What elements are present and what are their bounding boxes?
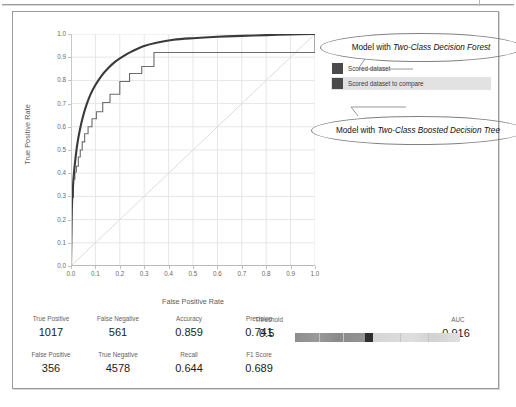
threshold-label: Threshold bbox=[255, 316, 283, 323]
metric-label-true-negative: True Negative bbox=[83, 351, 153, 358]
metric-value-false-negative: 561 bbox=[83, 326, 153, 338]
callout-2-emphasis: Two-Class Boosted Decision Tree bbox=[377, 126, 500, 135]
metric-label-recall: Recall bbox=[154, 351, 224, 358]
metric-value-true-negative: 4578 bbox=[83, 362, 153, 374]
callout-decision-forest: Model with Two-Class Decision Forest bbox=[320, 33, 516, 62]
threshold-slider-seam-4 bbox=[428, 333, 429, 342]
page-top-rule bbox=[2, 4, 514, 6]
evaluation-card: True Positive Rate False Positive Rate 0… bbox=[12, 11, 499, 389]
metric-value-recall: 0.644 bbox=[154, 362, 224, 374]
metric-value-true-positive: 1017 bbox=[16, 326, 86, 338]
metric-label-true-positive: True Positive bbox=[16, 315, 86, 322]
metrics-panel: True Positive False Negative Accuracy Pr… bbox=[13, 315, 500, 387]
callout-boosted-decision-tree: Model with Two-Class Boosted Decision Tr… bbox=[311, 116, 516, 145]
threshold-slider-seam-2 bbox=[343, 333, 344, 342]
threshold-slider-track-filled bbox=[295, 333, 367, 342]
threshold-slider-handle[interactable] bbox=[365, 333, 373, 342]
threshold-slider-track-remaining bbox=[372, 333, 460, 342]
metric-value-false-positive: 356 bbox=[16, 362, 86, 374]
auc-label: AUC bbox=[433, 316, 483, 323]
metric-label-false-negative: False Negative bbox=[83, 315, 153, 322]
threshold-slider-seam-1 bbox=[319, 333, 320, 342]
roc-evaluation-page: True Positive Rate False Positive Rate 0… bbox=[0, 0, 516, 407]
callout-1-emphasis: Two-Class Decision Forest bbox=[393, 43, 490, 52]
callout-2-prefix: Model with bbox=[336, 126, 377, 135]
metric-label-f1-score: F1 Score bbox=[224, 351, 294, 358]
page-top-tick bbox=[479, 0, 480, 6]
threshold-slider-seam-3 bbox=[400, 333, 401, 342]
metric-value-f1-score: 0.689 bbox=[224, 362, 294, 374]
metric-label-false-positive: False Positive bbox=[16, 351, 86, 358]
threshold-slider[interactable] bbox=[295, 333, 460, 342]
metric-label-accuracy: Accuracy bbox=[154, 315, 224, 322]
callout-1-prefix: Model with bbox=[352, 43, 393, 52]
metric-value-accuracy: 0.859 bbox=[154, 326, 224, 338]
threshold-value: 0.5 bbox=[259, 327, 274, 339]
